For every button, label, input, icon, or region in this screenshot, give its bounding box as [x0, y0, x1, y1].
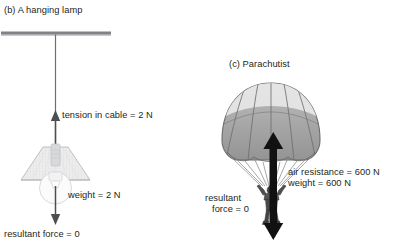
figure-canvas: (b) A hanging lamp tension in cable = 2 …: [0, 0, 394, 249]
resultant-force-label-lamp: resultant force = 0: [4, 229, 80, 241]
diagram-graphics: [0, 0, 394, 249]
panel-b-title: (b) A hanging lamp: [4, 5, 82, 17]
resultant-force-label-parachutist-line1: resultant: [205, 193, 241, 205]
panel-c-title: (c) Parachutist: [229, 59, 290, 71]
resultant-force-label-parachutist-line2: force = 0: [212, 204, 249, 216]
parachutist-drawing: [211, 83, 331, 240]
tension-label: tension in cable = 2 N: [62, 110, 153, 122]
weight-label-parachutist: weight = 600 N: [288, 178, 351, 190]
lamp-fitting: [51, 144, 60, 166]
weight-label: weight = 2 N: [68, 190, 121, 202]
air-resistance-label: air resistance = 600 N: [288, 167, 380, 179]
